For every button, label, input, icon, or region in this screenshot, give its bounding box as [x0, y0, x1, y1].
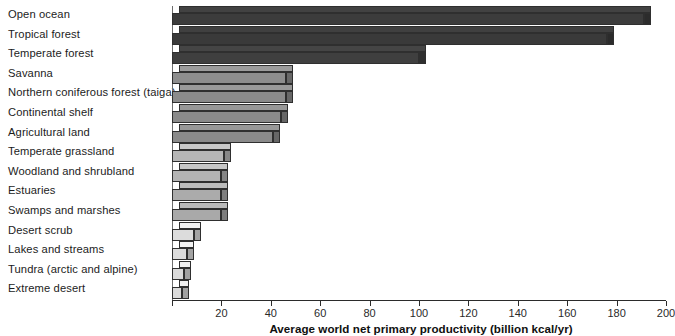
x-axis-tick [617, 301, 618, 306]
x-axis-tick [567, 301, 568, 306]
x-axis-title: Average world net primary productivity (… [172, 322, 670, 335]
bar-top-face [179, 222, 201, 229]
bar-front-face [172, 150, 224, 162]
x-axis-tick [666, 301, 667, 306]
bar [172, 104, 281, 116]
bar-top-face [179, 163, 228, 170]
x-axis-tick [419, 301, 420, 306]
bar [172, 65, 286, 77]
bar [172, 222, 194, 234]
bar-top-face [179, 124, 280, 131]
bar-top-face [179, 241, 194, 248]
bar [172, 45, 419, 57]
bar-side-face [286, 91, 293, 103]
category-label: Tundra (arctic and alpine) [8, 263, 138, 275]
category-label: Tropical forest [8, 28, 80, 40]
bar [172, 163, 221, 175]
x-axis-tick-label: 100 [410, 307, 428, 319]
x-axis-tick-label: 180 [607, 307, 625, 319]
bar [172, 280, 182, 292]
bar-front-face [172, 111, 281, 123]
bar [172, 6, 644, 18]
x-axis-tick-label: 60 [314, 307, 326, 319]
plot-area: 20406080100120140160180200 [172, 0, 670, 300]
category-label: Woodland and shrubland [8, 165, 134, 177]
bar-side-face [187, 248, 194, 260]
bar-side-face [221, 209, 228, 221]
bar-side-face [419, 52, 426, 64]
bar [172, 261, 184, 273]
category-label: Savanna [8, 67, 53, 79]
bar-side-face [224, 150, 231, 162]
x-axis-tick-label: 40 [265, 307, 277, 319]
x-axis-tick [468, 301, 469, 306]
bar-side-face [221, 170, 228, 182]
bar [172, 182, 221, 194]
bar-front-face [172, 268, 184, 280]
bar-front-face [172, 52, 419, 64]
bar [172, 26, 607, 38]
bar-front-face [172, 72, 286, 84]
bar-top-face [179, 143, 231, 150]
bar-front-face [172, 170, 221, 182]
bar-side-face [194, 229, 201, 241]
bar-side-face [221, 189, 228, 201]
bar [172, 202, 221, 214]
category-label: Swamps and marshes [8, 204, 120, 216]
bar-side-face [184, 268, 191, 280]
x-axis-tick [370, 301, 371, 306]
bar-top-face [179, 261, 191, 268]
x-axis-tick-label: 120 [459, 307, 477, 319]
bar-top-face [179, 104, 288, 111]
x-axis-tick [172, 301, 173, 306]
bar-top-face [179, 280, 189, 287]
bar-front-face [172, 189, 221, 201]
bar-front-face [172, 33, 607, 45]
x-axis-tick-label: 140 [509, 307, 527, 319]
category-label: Continental shelf [8, 106, 93, 118]
bar [172, 124, 273, 136]
bar-top-face [179, 65, 293, 72]
category-label: Extreme desert [8, 282, 85, 294]
bar-side-face [281, 111, 288, 123]
x-axis-tick-label: 20 [215, 307, 227, 319]
bar [172, 241, 187, 253]
category-label: Agricultural land [8, 126, 90, 138]
bar-front-face [172, 13, 644, 25]
category-label: Temperate grassland [8, 145, 114, 157]
bar-side-face [644, 13, 651, 25]
bar-top-face [179, 26, 614, 33]
bar-front-face [172, 209, 221, 221]
bar-front-face [172, 229, 194, 241]
bar-front-face [172, 91, 286, 103]
bar-front-face [172, 131, 273, 143]
category-label: Northern coniferous forest (taiga) [8, 86, 176, 98]
bar-top-face [179, 45, 426, 52]
bar-front-face [172, 248, 187, 260]
bar-side-face [182, 287, 189, 299]
x-axis-tick-label: 200 [657, 307, 675, 319]
x-axis-tick-label: 160 [558, 307, 576, 319]
bar-top-face [179, 6, 651, 13]
category-label: Temperate forest [8, 47, 94, 59]
category-label: Desert scrub [8, 224, 73, 236]
bar-top-face [179, 202, 228, 209]
bar-top-face [179, 84, 293, 91]
x-axis-tick-label: 80 [363, 307, 375, 319]
bar-top-face [179, 182, 228, 189]
bar [172, 143, 224, 155]
category-label: Lakes and streams [8, 243, 104, 255]
category-label: Estuaries [8, 184, 56, 196]
bar-side-face [286, 72, 293, 84]
category-label-column: Open oceanTropical forestTemperate fores… [0, 0, 168, 300]
x-axis-tick [271, 301, 272, 306]
bar-side-face [607, 33, 614, 45]
bar-front-face [172, 287, 182, 299]
category-label: Open ocean [8, 8, 70, 20]
x-axis-tick [320, 301, 321, 306]
x-axis-tick [518, 301, 519, 306]
x-axis-tick [221, 301, 222, 306]
bar-side-face [273, 131, 280, 143]
bar [172, 84, 286, 96]
